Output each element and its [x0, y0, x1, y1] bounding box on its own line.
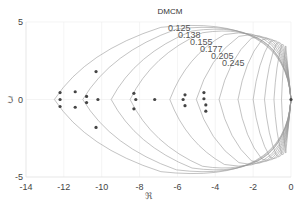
pole-point — [58, 91, 61, 94]
x-axis-label: ℜ — [145, 191, 153, 201]
pole-point — [96, 98, 99, 101]
x-tick-label: 0 — [288, 182, 293, 192]
pole-point — [58, 105, 61, 108]
pole-point — [202, 97, 205, 100]
x-tick-label: -4 — [211, 182, 219, 192]
chart-title: DMCM — [158, 7, 183, 16]
pole-point — [183, 104, 186, 107]
pole-point — [183, 93, 186, 96]
y-tick-label: 0 — [18, 95, 23, 105]
y-axis-ticks: -505 — [15, 17, 23, 182]
x-tick-label: -12 — [57, 182, 70, 192]
pole-point — [132, 92, 135, 95]
x-tick-label: -14 — [19, 182, 32, 192]
x-tick-label: -2 — [249, 182, 257, 192]
x-tick-label: -6 — [173, 182, 181, 192]
pole-point — [182, 98, 185, 101]
x-axis-ticks: -14-12-10-8-6-4-20 — [19, 182, 293, 192]
y-tick-label: 5 — [18, 17, 23, 27]
damping-label: 0.245 — [222, 58, 245, 68]
grid-lines — [26, 22, 291, 177]
pole-point — [74, 90, 77, 93]
pole-point — [58, 98, 61, 101]
y-tick-label: -5 — [15, 172, 23, 182]
x-tick-label: -10 — [95, 182, 108, 192]
pole-point — [134, 98, 137, 101]
pole-point — [74, 106, 77, 109]
pole-point — [132, 107, 135, 110]
pole-point — [204, 103, 207, 106]
root-locus-chart: 0.1250.1380.1550.1770.2050.245 -14-12-10… — [0, 0, 302, 205]
pole-point — [289, 98, 292, 101]
pole-point — [85, 101, 88, 104]
y-axis-label: ℑ — [7, 95, 13, 105]
pole-point — [94, 126, 97, 129]
pole-point — [94, 70, 97, 73]
pole-point — [204, 110, 207, 113]
pole-point — [202, 91, 205, 94]
pole-point — [85, 95, 88, 98]
pole-point — [153, 98, 156, 101]
x-tick-label: -8 — [136, 182, 144, 192]
